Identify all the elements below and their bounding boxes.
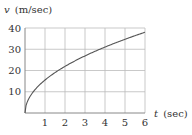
x-tick-label: 1	[42, 117, 48, 128]
x-axis-label: t (sec)	[154, 108, 188, 119]
velocity-chart: 10203040 123456 v (m/sec) t (sec)	[0, 0, 192, 135]
y-tick-label: 20	[8, 65, 21, 76]
y-tick-labels: 10203040	[8, 23, 21, 98]
x-tick-label: 2	[62, 117, 68, 128]
y-tick-label: 30	[8, 44, 21, 55]
y-axis-unit: (m/sec)	[15, 4, 52, 15]
y-tick-label: 40	[8, 23, 21, 34]
y-tick-label: 10	[8, 86, 21, 97]
grid-lines	[25, 28, 145, 113]
x-tick-label: 3	[82, 117, 88, 128]
x-tick-label: 5	[122, 117, 128, 128]
x-axis-variable: t	[154, 108, 159, 119]
x-tick-label: 4	[102, 117, 108, 128]
y-axis-variable: v	[4, 4, 10, 15]
y-axis-label: v (m/sec)	[4, 4, 52, 15]
x-tick-label: 6	[142, 117, 148, 128]
x-tick-labels: 123456	[42, 117, 148, 128]
x-axis-unit: (sec)	[163, 108, 188, 119]
